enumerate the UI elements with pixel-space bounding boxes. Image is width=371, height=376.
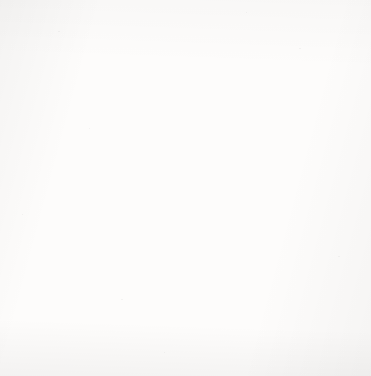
data-point (183, 263, 190, 270)
data-point (183, 123, 190, 130)
data-point (121, 232, 128, 239)
data-point (137, 139, 144, 146)
data-point (261, 232, 268, 239)
coordinate-plane-figure: x y Origin −10−9−8−7−6−5−4−3−2−101234567… (0, 0, 371, 376)
data-point (292, 185, 299, 192)
plotted-points (0, 0, 371, 376)
data-point (106, 61, 113, 68)
data-point (59, 185, 66, 192)
data-point (307, 92, 314, 99)
